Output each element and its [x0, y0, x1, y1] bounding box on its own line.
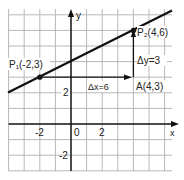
point-a-label: A(4,3) — [136, 81, 163, 92]
coordinate-diagram: P₁(-2,3) P₂(4,6) A(4,3) Δx=6 Δy=3 y x 0 … — [0, 0, 184, 180]
point-p2-label: P₂(4,6) — [137, 27, 168, 38]
y-axis-arrow-icon — [68, 9, 74, 17]
origin-label: 0 — [74, 127, 80, 138]
delta-x-label: Δx=6 — [88, 82, 109, 92]
y-tick-label-neg2: -2 — [59, 150, 68, 161]
x-tick-label-neg2: -2 — [35, 127, 44, 138]
x-axis-label: x — [170, 128, 175, 138]
delta-y-arrow — [131, 30, 136, 78]
x-tick-label-2: 2 — [99, 127, 105, 138]
point-p1-label: P₁(-2,3) — [9, 59, 43, 70]
delta-y-label: Δy=3 — [137, 55, 161, 66]
x-axis-arrow-icon — [171, 121, 179, 127]
point-p1 — [37, 75, 42, 80]
y-tick-label-2: 2 — [63, 87, 69, 98]
point-p2 — [131, 28, 136, 33]
y-axis-label: y — [76, 10, 81, 21]
